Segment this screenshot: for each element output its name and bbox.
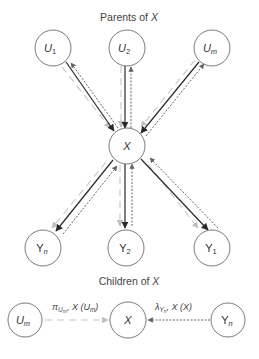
bayesian-network-diagram: Parents of X U1 U2 U	[0, 0, 259, 359]
edge-u2-x	[121, 66, 131, 128]
node-y2: Y2	[108, 230, 144, 266]
edge-um-x	[141, 60, 204, 136]
parents-title: Parents of X	[100, 11, 159, 23]
bottom-node-um: Um	[8, 303, 42, 337]
lambda-message-label: λYn, X (X)	[154, 302, 192, 314]
svg-text:X: X	[123, 314, 132, 326]
edge-x-y2	[120, 164, 132, 228]
edge-u1-x	[62, 62, 118, 131]
node-u1: U1	[35, 30, 71, 66]
node-um: Um	[194, 30, 230, 66]
pi-message-label: πUm, X (Um)	[52, 302, 98, 314]
edge-x-yn	[52, 160, 117, 234]
bottom-node-x: X	[110, 302, 146, 338]
node-y1: Y1	[194, 230, 230, 266]
children-title: Children of X	[99, 275, 161, 287]
node-u2: U2	[109, 30, 145, 66]
node-yn: Yn	[25, 230, 61, 266]
svg-text:X: X	[122, 140, 131, 152]
node-x: X	[109, 128, 145, 164]
bottom-node-yn: Yn	[211, 303, 245, 337]
edge-x-y1	[141, 158, 218, 230]
